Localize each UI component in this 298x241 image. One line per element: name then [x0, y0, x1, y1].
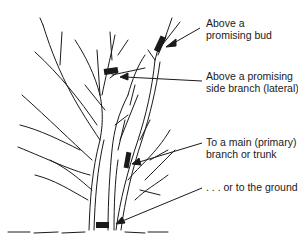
cut-ground: [96, 222, 109, 228]
label-above-lateral: Above a promising side branch (lateral): [206, 70, 298, 94]
label-to-ground: . . . or to the ground: [206, 181, 298, 193]
label-main-branch: To a main (primary) branch or trunk: [206, 136, 296, 160]
shrub-branches: [8, 18, 180, 233]
label-above-bud: Above a promising bud: [206, 17, 272, 41]
cut-bud: [154, 35, 166, 52]
cut-markers: [96, 35, 166, 228]
